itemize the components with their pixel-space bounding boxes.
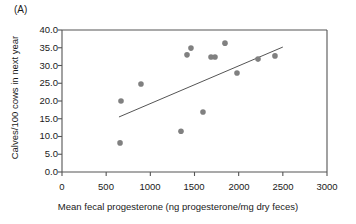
x-axis-label: Mean fecal progesterone (ng progesterone…	[0, 201, 356, 212]
y-tick-label: 10.0	[24, 131, 58, 141]
y-tick-label: 25.0	[24, 78, 58, 88]
x-tick-label: 1000	[130, 182, 170, 192]
data-points-group	[117, 40, 278, 145]
x-tick-label: 3000	[307, 182, 347, 192]
figure-panel-a: (A) Calves/100 cows in next year Mean fe…	[0, 0, 356, 224]
x-tick-label: 0	[42, 182, 82, 192]
y-tick-label: 0.0	[24, 167, 58, 177]
y-tick-label: 40.0	[24, 25, 58, 35]
axes-group	[58, 30, 327, 176]
x-tick-label: 2500	[263, 182, 303, 192]
y-tick-label: 15.0	[24, 114, 58, 124]
x-tick-label: 1500	[174, 182, 214, 192]
y-axis-label: Calves/100 cows in next year	[9, 18, 20, 178]
y-tick-label: 5.0	[24, 149, 58, 159]
y-tick-label: 20.0	[24, 96, 58, 106]
x-tick-label: 2000	[219, 182, 259, 192]
data-point	[222, 40, 228, 46]
data-point	[118, 98, 124, 104]
y-tick-label: 30.0	[24, 61, 58, 71]
panel-label: (A)	[14, 4, 27, 16]
x-tick-label: 500	[86, 182, 126, 192]
data-point	[188, 45, 194, 51]
data-point	[138, 81, 144, 87]
data-point	[184, 52, 190, 58]
data-point	[117, 140, 123, 146]
data-point	[272, 53, 278, 59]
y-tick-label: 35.0	[24, 43, 58, 53]
data-point	[178, 128, 184, 134]
data-point	[234, 70, 240, 76]
data-point	[212, 54, 218, 60]
data-point	[255, 56, 261, 62]
data-point	[200, 109, 206, 115]
